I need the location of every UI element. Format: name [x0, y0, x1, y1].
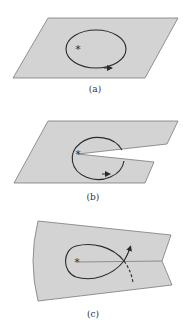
- panel-label-c: (c): [87, 309, 99, 319]
- panel-a: * (a): [13, 18, 178, 94]
- figure-canvas: * (a) * (b) * (c): [0, 0, 187, 325]
- singular-point-marker: *: [74, 256, 80, 269]
- panel-c: * (c): [33, 221, 172, 319]
- singular-point-marker: *: [75, 148, 81, 161]
- panel-label-b: (b): [87, 192, 100, 202]
- cut-plane-sheet: [14, 121, 178, 183]
- panel-label-a: (a): [89, 84, 101, 94]
- plane-sheet: [13, 18, 178, 78]
- panel-b: * (b): [14, 121, 178, 202]
- singular-point-marker: *: [75, 43, 81, 56]
